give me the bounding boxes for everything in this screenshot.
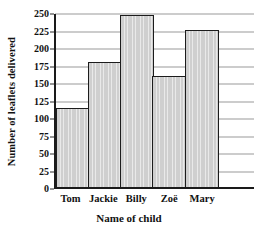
x-tick-label: Mary (186, 192, 219, 207)
x-axis-line (54, 187, 254, 189)
y-tick-label: 100 (34, 114, 49, 124)
y-axis-title-text: Number of leaflets delivered (6, 37, 17, 166)
y-tick-label: 225 (34, 27, 49, 37)
y-tick-label: 25 (39, 167, 49, 177)
x-tick-label: Jackie (87, 192, 120, 207)
x-axis-title-text: Name of child (96, 212, 161, 224)
y-tick-label: 125 (34, 97, 49, 107)
x-tick-label: Zoë (153, 192, 186, 207)
y-axis-title: Number of leaflets delivered (3, 14, 19, 189)
y-axis-tick-labels: 0255075100125150175200225250 (19, 14, 49, 189)
y-tick-label: 250 (34, 9, 49, 19)
y-tick-label: 200 (34, 44, 49, 54)
bar (56, 108, 90, 188)
plot-area (54, 14, 254, 189)
bar-series (56, 14, 219, 187)
y-tick-label: 75 (39, 132, 49, 142)
y-tick-label: 50 (39, 149, 49, 159)
y-tick-label: 0 (44, 184, 49, 194)
x-axis-title: Name of child (0, 212, 258, 224)
y-tick-label: 175 (34, 62, 49, 72)
x-tick-label: Billy (120, 192, 153, 207)
bar (152, 76, 186, 187)
x-tick-label: Tom (54, 192, 87, 207)
y-tick-label: 150 (34, 79, 49, 89)
x-axis-tick-labels: TomJackieBillyZoëMary (54, 192, 254, 207)
bar (185, 30, 219, 187)
x-axis-tick-row: TomJackieBillyZoëMary (54, 192, 219, 207)
bar (120, 15, 154, 188)
bar-chart: Number of leaflets delivered 02550751001… (0, 0, 258, 235)
bar (88, 62, 122, 188)
